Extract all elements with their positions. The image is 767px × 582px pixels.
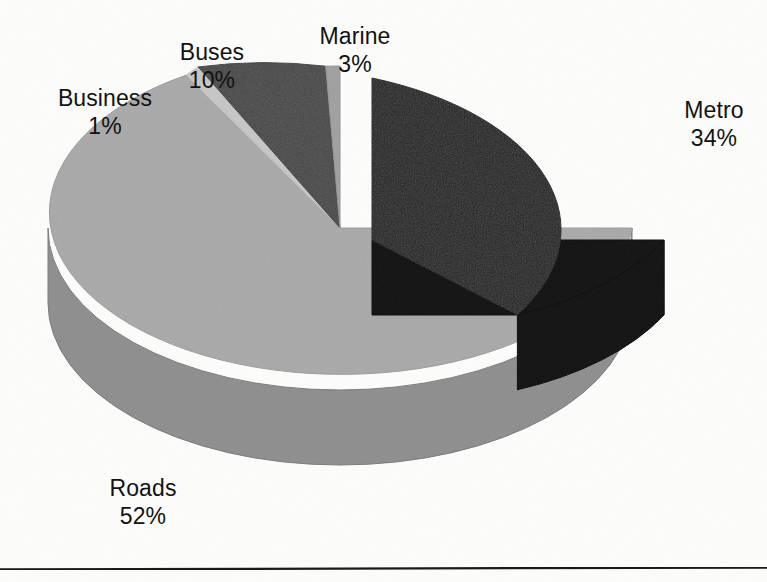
slice-label-roads-name: Roads [88, 474, 198, 502]
slice-label-roads-percent: 52% [88, 502, 198, 530]
slice-label-roads: Roads 52% [88, 474, 198, 530]
slice-label-buses: Buses 10% [157, 38, 267, 94]
slice-label-marine-name: Marine [296, 22, 414, 50]
slice-label-metro-percent: 34% [664, 124, 764, 152]
slice-label-buses-name: Buses [157, 38, 267, 66]
bottom-divider [0, 567, 767, 570]
slice-label-business-percent: 1% [30, 112, 180, 140]
slice-label-buses-percent: 10% [157, 66, 267, 94]
slice-label-metro-name: Metro [664, 96, 764, 124]
pie-chart-page: Business 1% Buses 10% Marine 3% Metro 34… [0, 0, 767, 582]
slice-label-metro: Metro 34% [664, 96, 764, 152]
slice-label-marine-percent: 3% [296, 50, 414, 78]
slice-label-marine: Marine 3% [296, 22, 414, 78]
